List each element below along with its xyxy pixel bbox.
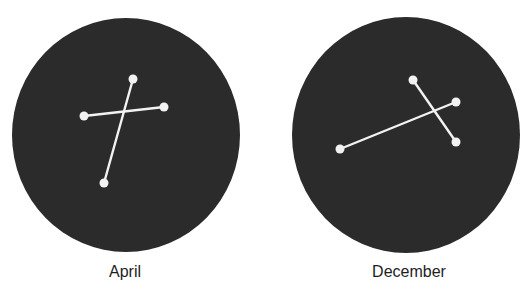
star-icon	[452, 138, 461, 147]
caption-december: December	[372, 263, 446, 281]
star-icon	[409, 76, 418, 85]
star-icon	[160, 103, 169, 112]
constellation-diagram	[0, 0, 525, 286]
star-icon	[100, 179, 109, 188]
caption-april: April	[109, 263, 141, 281]
star-icon	[80, 112, 89, 121]
star-icon	[129, 75, 138, 84]
panel-april	[12, 18, 240, 252]
star-icon	[336, 145, 345, 154]
sky-disc	[12, 18, 240, 252]
sky-disc	[292, 17, 520, 253]
panel-december	[292, 17, 520, 253]
star-icon	[452, 98, 461, 107]
